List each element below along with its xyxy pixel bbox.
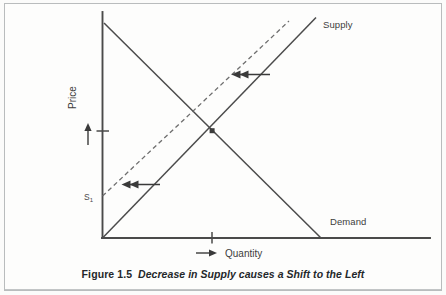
y-axis-label: Price xyxy=(67,68,78,128)
figure-caption-number: Figure 1.5 xyxy=(82,268,133,280)
supply-curve-label: Supply xyxy=(323,19,353,30)
figure-caption-text: Decrease in Supply causes a Shift to the… xyxy=(138,268,364,280)
shifted-supply-letter: S xyxy=(84,192,90,202)
figure-container: Supply Demand S1 Price Quantity Figure 1… xyxy=(0,0,446,295)
equilibrium-point-marker xyxy=(210,128,215,133)
demand-curve-label: Demand xyxy=(330,216,367,227)
supply-curve xyxy=(103,18,317,239)
shifted-supply-curve-dashed xyxy=(103,21,290,196)
price-axis-up-arrow-icon xyxy=(84,123,91,145)
supply-demand-chart xyxy=(0,0,446,295)
figure-caption: Figure 1.5 Decrease in Supply causes a S… xyxy=(0,268,446,280)
x-axis-label: Quantity xyxy=(225,248,262,259)
caption-divider xyxy=(5,289,441,290)
shifted-supply-subscript: 1 xyxy=(90,197,93,203)
shifted-supply-curve-label: S1 xyxy=(84,192,93,202)
quantity-axis-right-arrow-icon xyxy=(196,249,217,256)
lower-shift-arrow-icon xyxy=(122,181,161,189)
